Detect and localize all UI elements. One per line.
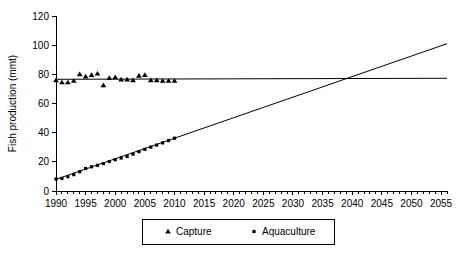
data-point-capture — [130, 77, 136, 82]
data-point-capture — [136, 73, 142, 78]
x-axis-tick-label: 2045 — [371, 198, 394, 209]
data-point-aquaculture — [54, 177, 57, 180]
x-axis-tick-label: 2020 — [223, 198, 246, 209]
data-point-capture — [83, 74, 89, 79]
y-axis-title: Fish production (mmt) — [7, 55, 18, 152]
x-axis-tick-label: 2005 — [134, 198, 157, 209]
y-axis-tick-label: 60 — [38, 98, 50, 109]
data-point-aquaculture — [66, 175, 69, 178]
x-axis-tick-label: 2000 — [104, 198, 127, 209]
data-point-capture — [106, 75, 112, 80]
data-point-aquaculture — [114, 158, 117, 161]
data-point-aquaculture — [84, 167, 87, 170]
data-point-capture — [53, 77, 59, 82]
data-point-aquaculture — [155, 143, 158, 146]
data-point-capture — [59, 80, 65, 85]
data-point-capture — [77, 72, 83, 77]
data-point-capture — [112, 75, 118, 80]
data-point-aquaculture — [131, 153, 134, 156]
legend-label-capture: Capture — [176, 226, 212, 237]
x-axis-tick-label: 2055 — [430, 198, 453, 209]
y-axis-tick-label: 20 — [38, 156, 50, 167]
data-point-aquaculture — [78, 170, 81, 173]
x-axis-tick-label: 1990 — [45, 198, 68, 209]
x-axis-tick-label: 2035 — [311, 198, 334, 209]
data-point-aquaculture — [108, 160, 111, 163]
data-point-aquaculture — [72, 173, 75, 176]
data-point-capture — [154, 77, 160, 82]
data-point-aquaculture — [96, 164, 99, 167]
x-axis-tick-label: 2015 — [193, 198, 216, 209]
x-axis-tick-label: 2025 — [252, 198, 275, 209]
data-point-aquaculture — [120, 156, 123, 159]
data-point-aquaculture — [167, 139, 170, 142]
y-axis-tick-label: 40 — [38, 127, 50, 138]
data-point-capture — [95, 71, 101, 76]
y-axis-tick-label: 0 — [43, 186, 49, 197]
x-axis-tick-label: 2040 — [341, 198, 364, 209]
data-point-aquaculture — [125, 155, 128, 158]
y-axis-tick-label: 120 — [32, 11, 49, 22]
legend-label-aquaculture: Aquaculture — [262, 226, 316, 237]
x-axis-tick-label: 2010 — [163, 198, 186, 209]
x-axis-tick-label: 2050 — [400, 198, 423, 209]
data-point-aquaculture — [90, 165, 93, 168]
data-point-capture — [142, 72, 148, 77]
data-point-aquaculture — [60, 177, 63, 180]
data-point-aquaculture — [143, 148, 146, 151]
data-point-aquaculture — [161, 141, 164, 144]
x-axis-tick-label: 1995 — [74, 198, 97, 209]
legend-marker-aquaculture — [252, 230, 255, 233]
data-point-aquaculture — [137, 150, 140, 153]
data-point-capture — [89, 72, 95, 77]
chart-figure: 0204060801001201990199520002005201020152… — [0, 0, 461, 254]
data-point-aquaculture — [173, 137, 176, 140]
data-point-capture — [65, 80, 71, 85]
fish-production-chart: 0204060801001201990199520002005201020152… — [0, 0, 461, 254]
data-point-aquaculture — [149, 146, 152, 149]
x-axis-tick-label: 2030 — [282, 198, 305, 209]
data-point-capture — [148, 77, 154, 82]
y-axis-tick-label: 100 — [32, 40, 49, 51]
data-point-capture — [101, 83, 107, 88]
data-point-aquaculture — [102, 162, 105, 165]
y-axis-tick-label: 80 — [38, 69, 50, 80]
